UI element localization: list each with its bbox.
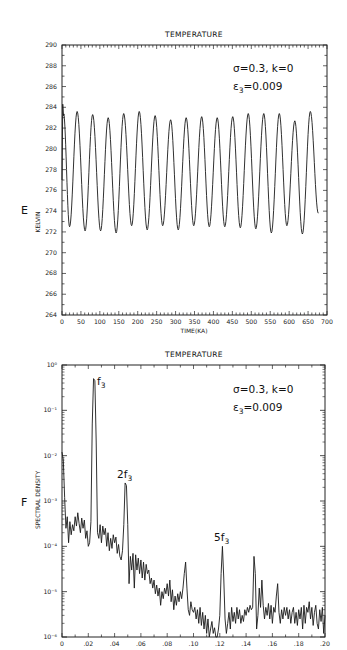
x-tick-label: .04 [110, 640, 120, 647]
y-tick-label: 264 [45, 311, 57, 318]
y-tick-label: 10⁻⁴ [43, 542, 57, 549]
peak-label-2f3: 2f3 [117, 468, 132, 483]
x-tick-label: 50 [77, 318, 85, 325]
x-tick-label: 400 [208, 318, 220, 325]
y-tick-label: 288 [45, 62, 57, 69]
x-tick-label: .02 [83, 640, 93, 647]
epsilon-annotation: ε3=0.009 [233, 401, 282, 416]
x-tick-label: 650 [302, 318, 314, 325]
y-tick-label: 268 [45, 269, 57, 276]
y-tick-label: 284 [45, 103, 57, 110]
x-tick-label: 700 [321, 318, 333, 325]
y-tick-label: 10⁻⁶ [43, 633, 57, 640]
y-axis-label: KELVIN [34, 212, 41, 233]
x-tick-label: .16 [267, 640, 277, 647]
y-tick-label: 10⁻⁵ [43, 588, 57, 595]
epsilon-annotation: ε3=0.009 [233, 80, 282, 95]
x-tick-label: .20 [320, 640, 330, 647]
x-tick-label: 500 [245, 318, 257, 325]
spectral-density-line [62, 379, 325, 637]
x-tick-label: 0 [60, 318, 64, 325]
y-tick-label: 272 [45, 228, 57, 235]
figure: TEMPERATURE 2642662682702722742762782802… [0, 0, 347, 650]
y-axis-label: SPECTRAL DENSITY [34, 471, 41, 529]
y-tick-labels: 2642662682702722742762782802822842862882… [45, 41, 57, 318]
x-tick-label: 100 [94, 318, 106, 325]
y-tick-label: 278 [45, 166, 57, 173]
x-axis-label: TIME(KA) [179, 327, 207, 334]
y-tick-label: 290 [45, 41, 57, 48]
spectral-density-chart: TEMPERATURE 10⁰10⁻¹10⁻²10⁻³10⁻⁴10⁻⁵10⁻⁶ … [21, 350, 330, 647]
x-tick-label: .18 [294, 640, 304, 647]
axis-ticks [62, 45, 327, 315]
y-tick-label: 282 [45, 124, 57, 131]
x-tick-label: 250 [151, 318, 163, 325]
x-tick-labels: 0501001502002503003504004505005506006507… [60, 318, 333, 325]
peak-label-5f3: 5f3 [214, 531, 229, 546]
plot-frame [62, 45, 327, 315]
plot-frame [62, 365, 325, 637]
y-tick-label: 10⁻³ [43, 497, 57, 504]
y-tick-label: 10⁰ [47, 361, 58, 368]
y-tick-label: 266 [45, 290, 57, 297]
x-tick-label: 600 [283, 318, 295, 325]
parameter-annotation: σ=0.3, k=0 [233, 383, 293, 395]
y-tick-label: 10⁻¹ [43, 406, 57, 413]
chart-title: TEMPERATURE [164, 350, 223, 359]
x-tick-labels: 0.02.04.06.08.10.12.14.16.18.20 [60, 640, 330, 647]
x-tick-label: .14 [241, 640, 251, 647]
panel-label: F [21, 496, 27, 509]
x-tick-label: .10 [189, 640, 199, 647]
y-tick-label: 10⁻² [43, 452, 57, 459]
y-tick-labels: 10⁰10⁻¹10⁻²10⁻³10⁻⁴10⁻⁵10⁻⁶ [43, 361, 57, 640]
peak-label-f3: f3 [97, 375, 106, 390]
chart-title: TEMPERATURE [164, 30, 223, 39]
y-tick-label: 274 [45, 207, 57, 214]
axis-ticks [62, 365, 325, 637]
x-tick-label: 350 [189, 318, 201, 325]
y-tick-label: 270 [45, 249, 57, 256]
x-tick-label: 550 [264, 318, 276, 325]
temperature-timeseries-chart: TEMPERATURE 2642662682702722742762782802… [21, 30, 333, 334]
parameter-annotation: σ=0.3, k=0 [233, 62, 293, 74]
x-tick-label: 200 [132, 318, 144, 325]
x-tick-label: .06 [136, 640, 146, 647]
x-tick-label: .12 [215, 640, 225, 647]
y-tick-label: 286 [45, 83, 57, 90]
x-tick-label: 0 [60, 640, 64, 647]
x-tick-label: 450 [226, 318, 238, 325]
x-tick-label: 150 [113, 318, 125, 325]
x-tick-label: 300 [170, 318, 182, 325]
temperature-line [62, 104, 318, 234]
y-tick-label: 280 [45, 145, 57, 152]
x-tick-label: .08 [162, 640, 172, 647]
panel-label: E [21, 204, 28, 217]
y-tick-label: 276 [45, 186, 57, 193]
